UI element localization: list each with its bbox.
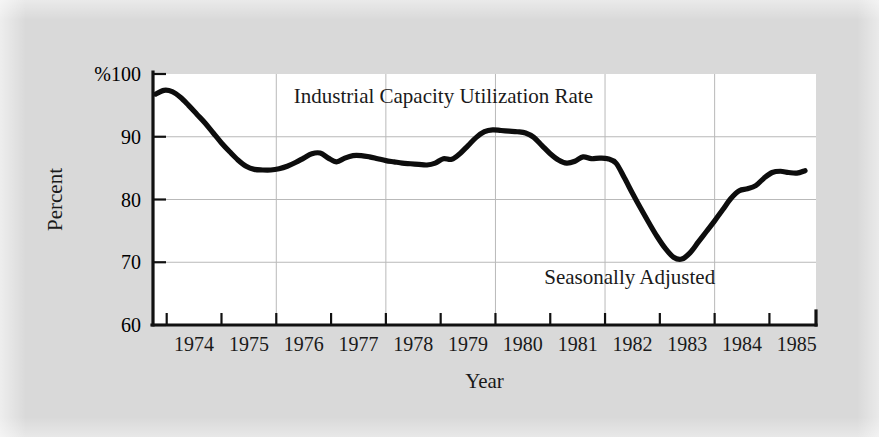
x-tick-label: 1977 [338, 333, 378, 355]
y-tick-label: 90 [121, 126, 141, 148]
y-axis-title: Percent [43, 168, 67, 231]
y-tick-label: %100 [94, 63, 141, 85]
capacity-utilization-line-chart: 60708090%1001974197519761977197819791980… [0, 0, 879, 437]
y-tick-label: 60 [121, 314, 141, 336]
x-tick-label: 1983 [667, 333, 707, 355]
plot-area: 60708090%1001974197519761977197819791980… [43, 63, 817, 393]
x-tick-label: 1985 [777, 333, 817, 355]
x-tick-label: 1978 [393, 333, 433, 355]
x-tick-label: 1982 [612, 333, 652, 355]
x-tick-label: 1976 [284, 333, 324, 355]
x-tick-label: 1979 [448, 333, 488, 355]
y-tick-label: 80 [121, 189, 141, 211]
adjustment-annotation: Seasonally Adjusted [544, 265, 715, 289]
chart-figure: 60708090%1001974197519761977197819791980… [0, 0, 879, 437]
x-tick-label: 1974 [174, 333, 214, 355]
x-tick-label: 1975 [229, 333, 269, 355]
x-tick-label: 1984 [722, 333, 762, 355]
x-axis-title: Year [465, 369, 504, 393]
x-tick-label: 1981 [558, 333, 598, 355]
series-annotation: Industrial Capacity Utilization Rate [294, 84, 593, 108]
y-tick-label: 70 [121, 251, 141, 273]
x-tick-label: 1980 [503, 333, 543, 355]
